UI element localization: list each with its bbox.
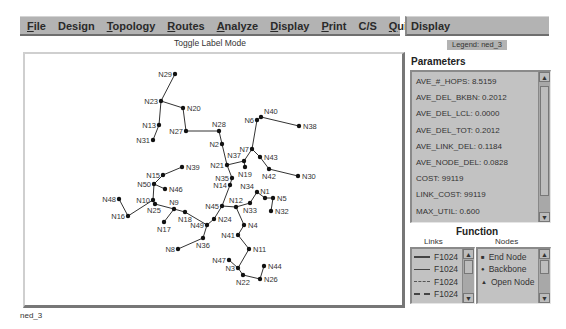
menu-file[interactable]: File bbox=[27, 20, 46, 32]
node-n37[interactable] bbox=[242, 159, 246, 163]
node-n27[interactable] bbox=[184, 129, 188, 133]
node-n39[interactable] bbox=[180, 165, 184, 169]
node-legend-item[interactable]: ●Backbone bbox=[481, 263, 534, 275]
menu-print[interactable]: Print bbox=[321, 20, 346, 32]
node-n44[interactable] bbox=[262, 264, 266, 268]
link-N10-N50[interactable] bbox=[153, 184, 154, 200]
node-n3[interactable] bbox=[236, 266, 240, 270]
menu-topology[interactable]: Topology bbox=[107, 20, 156, 32]
link-legend-item[interactable]: F1024 bbox=[414, 263, 458, 275]
node-n29[interactable] bbox=[173, 72, 177, 76]
link-legend-item[interactable]: F1024 bbox=[414, 251, 458, 263]
node-n28[interactable] bbox=[217, 129, 221, 133]
node-n2[interactable] bbox=[220, 142, 224, 146]
scroll-up-icon[interactable]: ▲ bbox=[463, 249, 474, 259]
node-n13[interactable] bbox=[157, 123, 161, 127]
menu-design[interactable]: Design bbox=[58, 20, 95, 32]
parameter-row[interactable]: AVE_LINK_DEL: 0.1184 bbox=[416, 139, 536, 155]
link-legend-item[interactable]: F1024 bbox=[414, 276, 458, 288]
menu-cs[interactable]: C/S bbox=[358, 20, 376, 32]
node-n23[interactable] bbox=[159, 99, 163, 103]
toggle-label-mode[interactable]: Toggle Label Mode bbox=[20, 38, 400, 48]
node-n30[interactable] bbox=[296, 174, 300, 178]
node-n31[interactable] bbox=[151, 138, 155, 142]
node-n15[interactable] bbox=[161, 173, 165, 177]
link-legend-item[interactable]: F1024 bbox=[414, 288, 458, 300]
network-graph[interactable]: N29N23N20N13N31N27N28N2N6N40N38N7N43N37N… bbox=[25, 54, 402, 305]
parameter-row[interactable]: AVE_NODE_DEL: 0.0828 bbox=[416, 155, 536, 171]
link-N23-N13[interactable] bbox=[159, 101, 161, 125]
parameter-row[interactable]: AVE_DEL_LCL: 0.0000 bbox=[416, 106, 536, 122]
link-N11-N3[interactable] bbox=[238, 249, 249, 268]
scroll-down-icon[interactable]: ▼ bbox=[539, 293, 550, 303]
parameter-row[interactable]: LINK_COST: 99119 bbox=[416, 187, 536, 203]
node-n47[interactable] bbox=[227, 258, 231, 262]
node-n42[interactable] bbox=[267, 167, 271, 171]
link-N21-N37[interactable] bbox=[227, 161, 244, 165]
node-legend-item[interactable]: ■End Node bbox=[481, 251, 534, 263]
node-n18[interactable] bbox=[183, 210, 187, 214]
nodes-scrollbar[interactable]: ▲ ▼ bbox=[538, 249, 550, 303]
node-n22[interactable] bbox=[241, 273, 245, 277]
menu-bar: FileDesignTopologyRoutesAnalyzeDisplayPr… bbox=[20, 16, 400, 36]
node-n46[interactable] bbox=[163, 187, 167, 191]
parameter-row[interactable]: AVE_DEL_TOT: 0.2012 bbox=[416, 123, 536, 139]
link-N41-N11[interactable] bbox=[238, 235, 249, 249]
node-n32[interactable] bbox=[269, 209, 273, 213]
node-n17[interactable] bbox=[162, 220, 166, 224]
node-n7[interactable] bbox=[250, 147, 254, 151]
node-n45[interactable] bbox=[220, 204, 224, 208]
node-n36[interactable] bbox=[201, 236, 205, 240]
node-n48[interactable] bbox=[117, 197, 121, 201]
link-N40-N38[interactable] bbox=[261, 117, 299, 126]
node-n14[interactable] bbox=[228, 183, 232, 187]
scroll-up-icon[interactable]: ▲ bbox=[539, 72, 550, 82]
node-label: N29 bbox=[158, 70, 172, 79]
node-n24[interactable] bbox=[212, 217, 216, 221]
links-scrollbar[interactable]: ▲ ▼ bbox=[462, 249, 474, 303]
node-n10[interactable] bbox=[151, 198, 155, 202]
node-n4[interactable] bbox=[242, 223, 246, 227]
node-n12[interactable] bbox=[234, 205, 238, 209]
node-n8[interactable] bbox=[176, 247, 180, 251]
node-n49[interactable] bbox=[205, 223, 209, 227]
node-n9[interactable] bbox=[172, 207, 176, 211]
node-n19[interactable] bbox=[243, 165, 247, 169]
network-canvas[interactable]: N29N23N20N13N31N27N28N2N6N40N38N7N43N37N… bbox=[23, 52, 405, 308]
node-n1[interactable] bbox=[263, 196, 267, 200]
node-n35[interactable] bbox=[230, 176, 234, 180]
scroll-up-icon[interactable]: ▲ bbox=[539, 249, 550, 259]
menu-routes[interactable]: Routes bbox=[167, 20, 204, 32]
parameter-row[interactable]: COST: 99119 bbox=[416, 171, 536, 187]
scroll-down-icon[interactable]: ▼ bbox=[463, 293, 474, 303]
parameter-row[interactable]: AVE_#_HOPS: 8.5159 bbox=[416, 74, 536, 90]
menu-display[interactable]: Display bbox=[270, 20, 309, 32]
node-n26[interactable] bbox=[258, 277, 262, 281]
node-n41[interactable] bbox=[236, 233, 240, 237]
scroll-thumb[interactable] bbox=[540, 260, 549, 274]
node-n43[interactable] bbox=[258, 155, 262, 159]
scroll-thumb[interactable] bbox=[464, 260, 473, 274]
node-n50[interactable] bbox=[152, 182, 156, 186]
parameters-scrollbar[interactable]: ▲ ▼ bbox=[538, 72, 550, 222]
node-n21[interactable] bbox=[225, 163, 229, 167]
parameter-row[interactable]: MAX_UTIL: 0.600 bbox=[416, 204, 536, 220]
node-n16[interactable] bbox=[126, 214, 130, 218]
node-n40[interactable] bbox=[259, 115, 263, 119]
link-N15-N39[interactable] bbox=[163, 167, 182, 175]
scroll-thumb[interactable] bbox=[540, 86, 549, 196]
node-n11[interactable] bbox=[247, 247, 251, 251]
node-n33[interactable] bbox=[248, 201, 252, 205]
link-N20-N27[interactable] bbox=[183, 108, 186, 131]
node-n34[interactable] bbox=[255, 190, 259, 194]
node-legend-item[interactable]: ▲Open Node bbox=[481, 276, 534, 288]
node-n38[interactable] bbox=[297, 124, 301, 128]
link-N23-N20[interactable] bbox=[161, 101, 183, 108]
parameter-row[interactable]: AVE_DEL_BKBN: 0.2012 bbox=[416, 90, 536, 106]
scroll-down-icon[interactable]: ▼ bbox=[539, 212, 550, 222]
menu-analyze[interactable]: Analyze bbox=[217, 20, 259, 32]
node-n6[interactable] bbox=[255, 118, 259, 122]
node-n5[interactable] bbox=[271, 196, 275, 200]
link-N9-N17[interactable] bbox=[164, 209, 174, 222]
node-n20[interactable] bbox=[181, 106, 185, 110]
